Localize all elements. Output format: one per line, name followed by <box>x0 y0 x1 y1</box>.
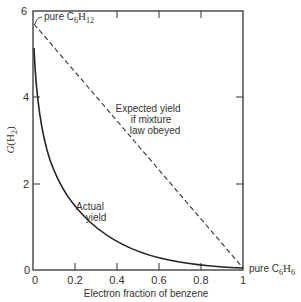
expected-yield-label-line2: if mixture <box>131 114 172 125</box>
pure-c6h12-label: pure C6H12 <box>44 10 94 25</box>
y-tick-label-0: 0 <box>24 264 30 276</box>
x-tick-label-0.4: 0.4 <box>109 274 124 286</box>
expected-yield-label-line3: law obeyed <box>130 125 181 136</box>
pure-c6h12-leader <box>35 17 42 24</box>
x-tick-label-0.2: 0.2 <box>67 274 82 286</box>
y-axis-title: G(H2) <box>4 126 19 154</box>
x-tick-label-1: 1 <box>240 274 246 286</box>
pure-c6h6-label: pure C6H6 <box>249 262 295 277</box>
x-axis-title: Electron fraction of benzene <box>84 288 209 299</box>
y-tick-label-4: 4 <box>23 91 29 103</box>
expected-yield-label-line1: Expected yield <box>115 103 180 114</box>
y-tick-label-2: 2 <box>23 178 29 190</box>
x-ticks <box>75 11 201 270</box>
actual-yield-label-line1: Actual <box>76 201 104 212</box>
y-tick-label-6: 6 <box>21 5 27 17</box>
x-tick-label-0.8: 0.8 <box>193 274 208 286</box>
actual-yield-curve <box>34 48 243 268</box>
chart: 6 4 2 0 0 0.2 0.4 0.6 0.8 1 Electron fra… <box>0 0 301 302</box>
actual-yield-label-line2: yield <box>86 212 107 223</box>
x-tick-label-0: 0 <box>32 274 38 286</box>
svg-text:G(H2): G(H2) <box>4 126 19 154</box>
expected-yield-line <box>34 24 243 268</box>
x-tick-label-0.6: 0.6 <box>151 274 166 286</box>
